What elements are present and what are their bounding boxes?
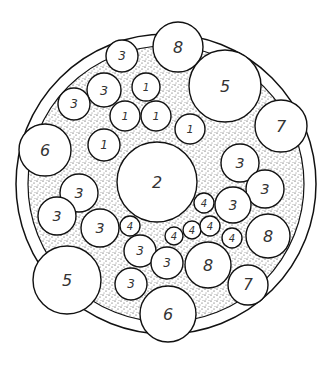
numbered-circle-5: 5 [33,246,101,314]
circle-label: 1 [100,138,108,152]
circle-label: 5 [62,271,72,290]
circle-label: 1 [152,110,159,123]
numbered-circle-6: 6 [140,286,196,342]
circle-label: 4 [189,225,195,236]
circle-label: 3 [136,244,144,258]
circle-label: 4 [201,198,207,209]
numbered-circle-6: 6 [19,124,71,176]
circle-label: 7 [276,117,287,136]
numbered-circle-1: 1 [132,73,160,101]
circle-label: 2 [152,173,162,192]
numbered-circle-8: 8 [246,214,290,258]
numbered-circle-7: 7 [255,100,307,152]
numbered-circle-5: 5 [189,50,261,122]
circle-label: 3 [95,220,104,236]
numbered-circle-1: 1 [88,129,120,161]
circle-label: 4 [127,221,133,232]
numbered-circle-3: 3 [246,170,284,208]
numbered-circle-1: 1 [110,101,140,131]
numbered-circle-3: 3 [151,247,183,279]
circle-label: 4 [207,221,213,232]
numbered-circle-3: 3 [106,40,138,72]
circle-label: 3 [235,155,244,171]
circle-label: 3 [127,277,135,291]
circle-label: 3 [118,49,126,63]
circle-label: 8 [263,227,273,246]
circle-label: 1 [143,81,150,93]
numbered-circle-4: 4 [120,216,140,236]
circle-label: 3 [74,185,83,201]
numbered-circle-2: 2 [117,142,197,222]
circle-label: 3 [260,181,269,197]
circle-label: 3 [70,97,78,111]
numbered-circle-4: 4 [222,228,242,248]
circle-label: 6 [163,305,173,324]
numbered-circle-1: 1 [141,101,171,131]
circle-packing-diagram: 857333111116233383334444448753336 [0,0,324,367]
numbered-circle-3: 3 [87,73,121,107]
numbered-circle-3: 3 [115,268,147,300]
numbered-circle-4: 4 [183,221,201,239]
numbered-circle-3: 3 [58,88,90,120]
numbered-circle-7: 7 [228,265,268,305]
circle-label: 3 [52,208,61,224]
circle-label: 3 [163,256,171,270]
numbered-circle-8: 8 [185,242,231,288]
numbered-circle-3: 3 [215,187,251,223]
circle-label: 4 [171,231,177,242]
numbered-circle-4: 4 [194,193,214,213]
circle-label: 8 [173,38,183,57]
numbered-circle-4: 4 [165,227,183,245]
circle-label: 6 [40,141,50,160]
circle-label: 5 [220,77,230,96]
circle-label: 1 [121,110,128,123]
circle-label: 7 [243,276,253,294]
circle-label: 8 [203,256,213,275]
numbered-circle-3: 3 [38,197,76,235]
circle-label: 4 [229,233,235,244]
circle-label: 1 [186,123,193,136]
numbered-circle-1: 1 [175,114,205,144]
circle-label: 3 [229,197,238,213]
numbered-circle-3: 3 [81,209,119,247]
numbered-circle-4: 4 [200,216,220,236]
circle-label: 3 [100,83,108,98]
